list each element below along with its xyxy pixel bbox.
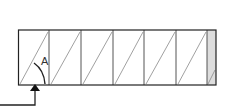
diagonal-5 (146, 32, 175, 84)
angle-label: A (41, 55, 49, 67)
diagonal-3 (83, 32, 112, 84)
diagram-canvas: A (0, 0, 234, 108)
diagonal-2 (51, 32, 80, 84)
cell-dividers (49, 30, 207, 85)
arrow-path (0, 90, 35, 105)
diagonal-4 (115, 32, 143, 84)
diagonal-6 (178, 32, 206, 84)
